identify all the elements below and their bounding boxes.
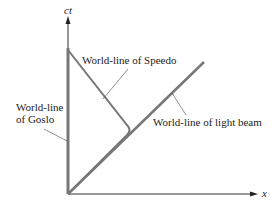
light-leader-line (172, 93, 186, 115)
speedo-label: World-line of Speedo (82, 54, 176, 66)
speedo-worldline (68, 50, 130, 194)
light-beam-worldline (68, 62, 204, 194)
goslo-label-line2: of Goslo (16, 113, 54, 125)
light-beam-label: World-line of light beam (153, 116, 262, 128)
speedo-leader-line (103, 69, 128, 99)
ct-axis-arrow-icon (66, 16, 71, 24)
x-axis-label: x (262, 187, 267, 199)
goslo-leader-line (44, 129, 67, 141)
goslo-label-line1: World-line (16, 101, 63, 113)
spacetime-diagram: ct x World-line of Speedo World-line of … (0, 0, 275, 203)
x-axis-arrow-icon (250, 192, 258, 197)
ct-axis-label: ct (64, 4, 72, 16)
